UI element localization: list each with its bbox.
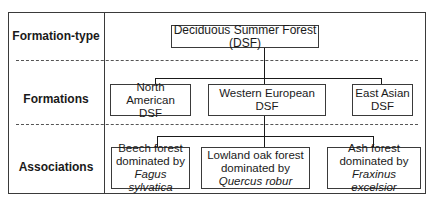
column-divider [104, 12, 105, 194]
formation-line1: North American [111, 81, 190, 107]
association-box-beech: Beech forest dominated by Fagus sylvatic… [111, 147, 190, 189]
association-species: Fagus sylvatica [112, 168, 189, 194]
formation-box-north-american: North American DSF [110, 84, 191, 116]
association-line2: dominated by [221, 162, 290, 175]
formation-line2: DSF [256, 100, 279, 113]
formation-line1: Western European [219, 87, 315, 100]
association-species: Quercus robur [219, 175, 293, 188]
connector-bar-1 [155, 78, 382, 79]
formation-type-label: Deciduous Summer Forest (DSF) [172, 24, 318, 50]
connector-bar-2 [157, 136, 374, 137]
row-label-formation-type: Formation-type [8, 29, 104, 43]
connector-trunk-2 [264, 115, 265, 147]
association-species: Fraxinus excelsior [328, 168, 420, 194]
formation-line2: DSF [371, 100, 394, 113]
association-box-ash: Ash forest dominated by Fraxinus excelsi… [327, 147, 421, 189]
row-divider-2 [16, 124, 418, 125]
formation-box-east-asian: East Asian DSF [352, 84, 413, 116]
association-line1: Ash forest [348, 142, 400, 155]
association-line2: dominated by [116, 155, 185, 168]
association-line2: dominated by [339, 155, 408, 168]
row-divider-1 [16, 60, 418, 61]
association-box-lowland-oak: Lowland oak forest dominated by Quercus … [201, 147, 310, 189]
formation-line2: DSF [139, 107, 162, 120]
formation-line1: East Asian [355, 87, 409, 100]
association-line1: Lowland oak forest [207, 149, 304, 162]
row-label-associations: Associations [8, 160, 104, 174]
formation-box-western-european: Western European DSF [208, 84, 326, 116]
association-line1: Beech forest [118, 142, 183, 155]
formation-type-box: Deciduous Summer Forest (DSF) [171, 25, 319, 48]
row-label-formations: Formations [8, 92, 104, 106]
